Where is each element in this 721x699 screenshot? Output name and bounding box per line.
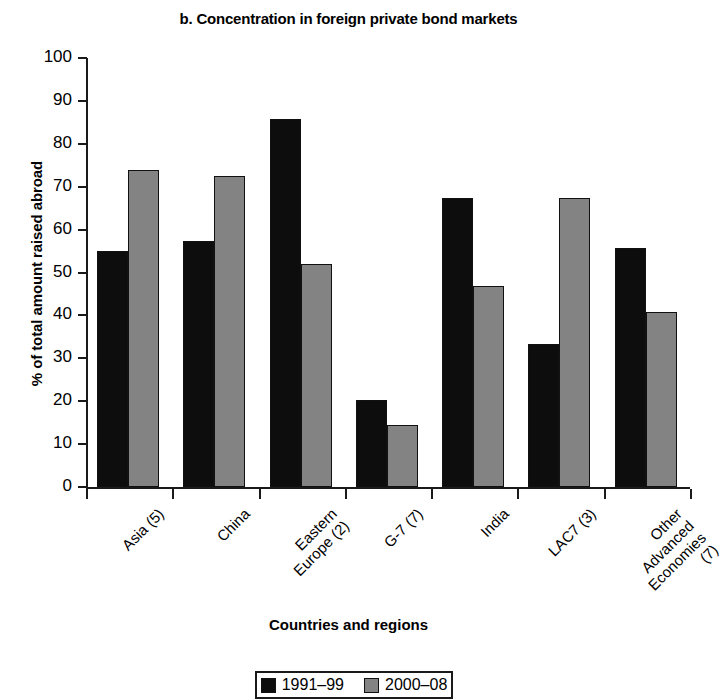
legend-label: 2000–08 [385,676,447,694]
x-axis-category-label: Eastern Europe (2) [278,505,352,579]
y-axis-tick-label: 10 [26,433,72,453]
bar [615,248,646,487]
bar [183,241,214,487]
bar [646,312,677,487]
legend-item[interactable]: 2000–08 [364,676,447,694]
legend-item[interactable]: 1991–99 [261,676,344,694]
bar [301,264,332,487]
x-axis-category-label: India [477,505,512,540]
bar [473,286,504,487]
y-axis-tick-label: 30 [26,347,72,367]
legend-label: 1991–99 [282,676,344,694]
x-axis-category-label: G-7 (7) [380,505,426,551]
y-axis-tick-label: 40 [26,304,72,324]
plot-area [86,58,690,487]
x-axis-category-labels: Asia (5)ChinaEastern Europe (2)G-7 (7)In… [0,487,697,617]
bar [270,119,301,487]
y-axis-tick-label: 80 [26,133,72,153]
bar [442,198,473,487]
x-axis-category-label: Other Advanced Economies (7) [620,505,721,606]
chart-title: b. Concentration in foreign private bond… [0,10,697,27]
x-axis-category-label: Asia (5) [119,505,168,554]
bar [97,251,128,487]
bar [559,198,590,487]
y-axis-tick-label: 20 [26,390,72,410]
legend-swatch-icon [261,678,276,693]
bar [528,344,559,487]
legend-swatch-icon [364,678,379,693]
x-axis-category-label: LAC7 (3) [544,505,598,559]
y-axis-tick-label: 70 [26,176,72,196]
y-axis-tick-label: 60 [26,219,72,239]
bar [214,176,245,487]
y-axis-tick-label: 50 [26,262,72,282]
y-axis-tick-label: 90 [26,90,72,110]
x-axis-title: Countries and regions [0,616,697,633]
bar [387,425,418,487]
bar [128,170,159,487]
x-axis-category-label: China [214,505,254,545]
chart-legend: 1991–992000–08 [255,671,453,699]
y-axis-tick-label: 100 [26,47,72,67]
bar [356,400,387,487]
